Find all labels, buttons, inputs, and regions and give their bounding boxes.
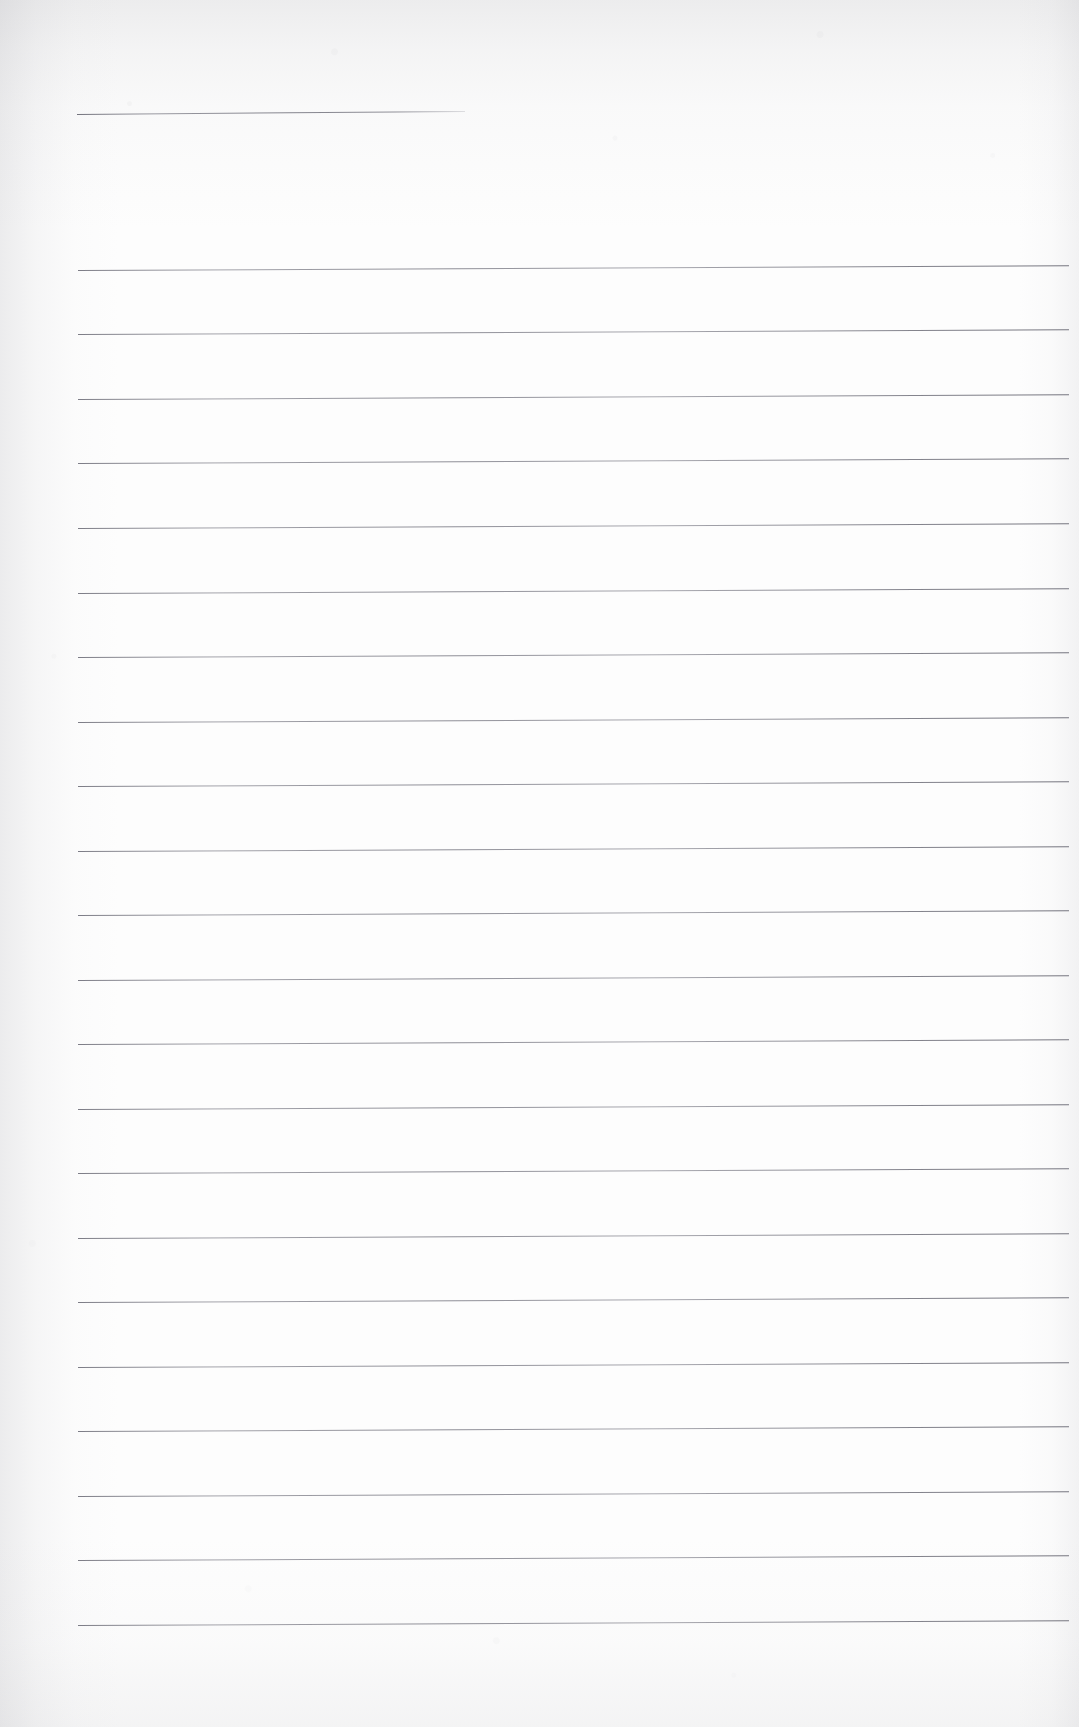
ruled-line xyxy=(78,458,1069,464)
ruled-line xyxy=(78,394,1069,400)
ruled-line xyxy=(78,717,1069,723)
ruled-line xyxy=(78,1233,1069,1239)
ruled-line xyxy=(78,1620,1069,1626)
ruled-line xyxy=(78,846,1069,852)
ruled-line xyxy=(78,1426,1069,1432)
ruled-line xyxy=(78,910,1069,916)
ruled-line xyxy=(78,975,1069,981)
ruled-line xyxy=(78,1362,1069,1368)
ruled-line xyxy=(78,1168,1069,1174)
ruled-line xyxy=(78,588,1069,594)
ruled-line xyxy=(78,523,1069,529)
ruled-lines-area xyxy=(0,0,1079,1727)
ruled-line xyxy=(78,265,1069,271)
ruled-line xyxy=(78,1104,1069,1110)
ruled-line xyxy=(78,1555,1069,1561)
ruled-line xyxy=(78,781,1069,787)
ruled-line xyxy=(78,1491,1069,1497)
ruled-line xyxy=(78,329,1069,335)
ruled-line xyxy=(78,1297,1069,1303)
scanned-page xyxy=(0,0,1079,1727)
ruled-line xyxy=(78,652,1069,658)
ruled-line xyxy=(78,1039,1069,1045)
